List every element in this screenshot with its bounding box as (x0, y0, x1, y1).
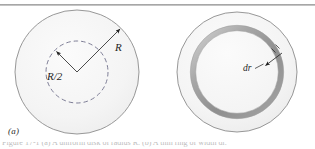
label-dr: dr (243, 63, 252, 73)
caption-text: Figure 17-1 (a) A uniform disk of radius… (2, 142, 227, 147)
panel-a: R/2 R (a) (0, 0, 157, 149)
label-r: R (114, 41, 122, 53)
caption-strip: Figure 17-1 (a) A uniform disk of radius… (0, 142, 315, 149)
figure-root: R/2 R (a) (0, 0, 315, 149)
panel-a-graphic: R/2 R (0, 0, 157, 149)
label-r-over-2: R/2 (46, 70, 63, 82)
panel-b: dr (b) (157, 0, 315, 149)
panel-a-label: (a) (8, 126, 19, 136)
panel-b-graphic: dr (157, 0, 315, 149)
